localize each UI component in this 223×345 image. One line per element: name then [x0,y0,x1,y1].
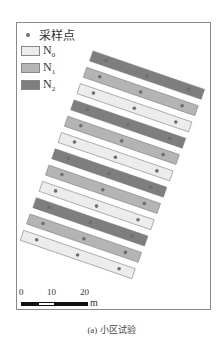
sample-point [145,74,149,78]
sample-point [85,108,89,112]
legend-sample-label: 采样点 [39,26,75,44]
n2-swatch-icon [21,80,40,90]
sample-point [79,124,83,128]
sample-point [126,123,130,127]
sample-point [95,204,99,208]
sample-point [60,173,64,177]
sample-point [41,222,45,226]
sample-point-icon [26,33,30,37]
legend-n0: N0 [21,43,55,59]
sample-point [168,137,172,141]
scale-segment-2 [38,302,55,306]
scale-tick-20: 20 [80,287,89,297]
sample-point [187,88,191,92]
n0-swatch-icon [21,46,40,56]
sample-point [88,221,92,225]
sample-point [73,140,77,144]
sample-point [82,237,86,241]
sample-point [180,104,184,108]
scale-segment-3 [55,302,88,306]
sample-point [66,157,70,161]
legend-sample-point: 采样点 [21,26,75,44]
sample-point [161,153,165,157]
sample-point [54,189,58,193]
sample-point [155,169,159,173]
sample-point [143,202,147,206]
legend-n0-label: N0 [43,43,55,59]
sample-point [76,253,80,257]
sample-point [149,185,153,189]
legend-n2-label: N2 [43,77,55,93]
legend-n1: N1 [21,60,55,76]
sample-point [48,205,52,209]
sample-point [124,251,128,255]
sample-point [130,234,134,238]
figure-caption: (a) 小区试验 [0,323,223,336]
sample-point [98,75,102,79]
legend-n1-label: N1 [43,60,55,76]
scale-tick-10: 10 [47,287,56,297]
sample-point [174,120,178,124]
sample-point [92,91,96,95]
sample-point [136,218,140,222]
sample-point [104,59,108,63]
sample-point [117,267,121,271]
n1-swatch-icon [21,63,40,73]
sample-point [139,90,143,94]
scale-tick-0: 0 [19,287,24,297]
sample-point [120,139,124,143]
sample-point [107,172,111,176]
legend-n2: N2 [21,77,55,93]
scale-unit: m [90,297,98,308]
sample-point [114,155,118,159]
sample-point [35,238,39,242]
sample-point [101,188,105,192]
scale-segment-1 [21,302,38,306]
sample-point [133,107,137,111]
